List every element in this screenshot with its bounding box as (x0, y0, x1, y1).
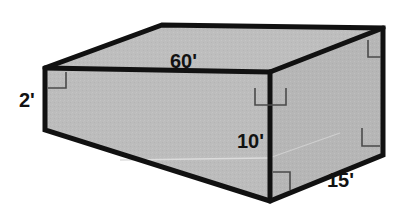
dimension-label-thickness: 2' (19, 90, 35, 110)
dimension-label-height: 10' (237, 131, 264, 151)
geometry-figure: 60' 2' 10' 15' (0, 0, 404, 212)
dimension-label-length: 60' (170, 51, 197, 71)
dimension-label-width: 15' (327, 170, 354, 190)
